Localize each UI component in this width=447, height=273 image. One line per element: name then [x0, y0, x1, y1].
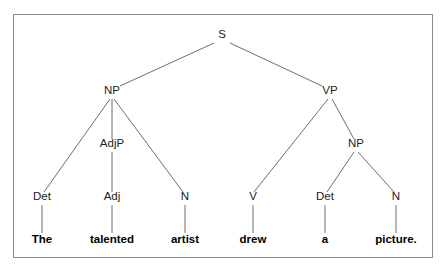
tree-branches: [42, 43, 396, 233]
branch-np-subject-to-n: [114, 99, 183, 192]
node-adjp: AdjP: [100, 137, 125, 149]
tree-leaf-words: The talented artist drew a picture.: [32, 233, 417, 245]
node-adj: Adj: [104, 190, 121, 202]
word-drew: drew: [240, 233, 267, 245]
branch-vp-to-v: [254, 99, 328, 192]
word-picture: picture.: [375, 233, 417, 245]
word-a: a: [322, 233, 329, 245]
branch-vp-to-np-object: [332, 99, 354, 139]
tree-node-labels: S NP VP AdjP NP Det Adj N V Det N: [33, 28, 400, 202]
node-det-1: Det: [33, 190, 52, 202]
node-np-object: NP: [348, 137, 364, 149]
node-det-2: Det: [316, 190, 335, 202]
word-artist: artist: [171, 233, 199, 245]
node-vp: VP: [322, 84, 338, 96]
branch-np-object-to-det: [327, 152, 354, 192]
node-n-2: N: [392, 190, 400, 202]
branch-np-object-to-n: [358, 152, 394, 192]
branch-s-to-vp: [230, 43, 322, 86]
word-the: The: [32, 233, 52, 245]
node-np-subject: NP: [104, 84, 120, 96]
syntax-tree-canvas: S NP VP AdjP NP Det Adj N V Det N The ta…: [0, 0, 447, 273]
node-v: V: [249, 190, 257, 202]
word-talented: talented: [90, 233, 134, 245]
node-s: S: [218, 28, 226, 40]
node-n-1: N: [181, 190, 189, 202]
branch-s-to-np-subject: [120, 43, 214, 86]
syntax-tree-diagram: S NP VP AdjP NP Det Adj N V Det N The ta…: [0, 0, 447, 273]
